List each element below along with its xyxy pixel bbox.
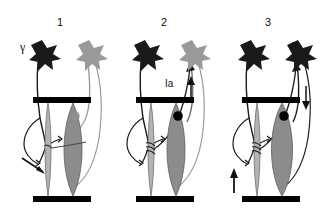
tendon-bar-bottom — [136, 196, 194, 202]
figure-canvas — [0, 0, 322, 214]
alpha-motor-terminal — [279, 111, 289, 121]
ia-label-panel-2: Ia — [165, 78, 173, 89]
alpha-label-panel-3: α — [291, 37, 297, 52]
tendon-bar-bottom — [242, 196, 300, 202]
gamma-label-panel-1: γ — [20, 40, 25, 55]
panel-1-number: 1 — [57, 16, 63, 28]
panel-3-number: 3 — [265, 16, 271, 28]
alpha-motor-terminal — [173, 111, 183, 121]
tendon-bar-top — [136, 97, 194, 103]
panel-2-number: 2 — [161, 16, 167, 28]
muscle-spindle-diagram — [0, 0, 322, 214]
alpha-motor-terminal — [70, 111, 79, 120]
tendon-bar-top — [33, 97, 91, 103]
tendon-bar-top — [242, 97, 300, 103]
tendon-bar-bottom — [33, 196, 91, 202]
